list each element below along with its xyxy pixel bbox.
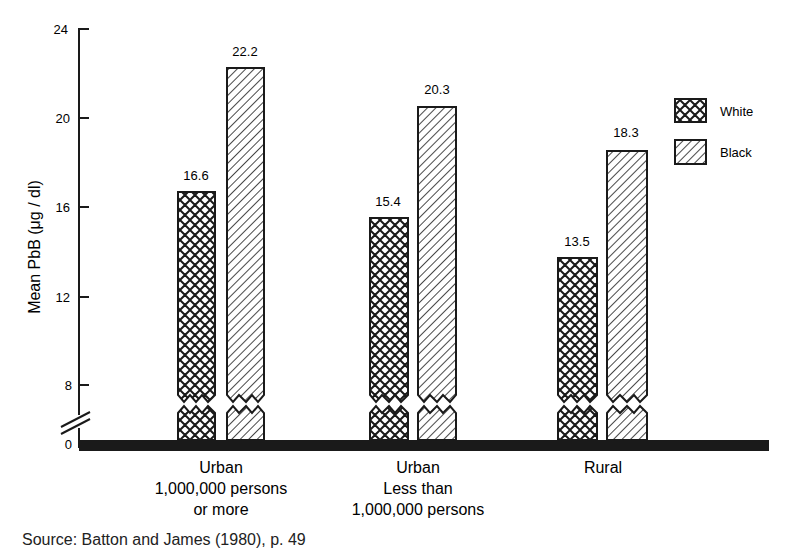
value-label-white-rural: 13.5	[564, 234, 589, 249]
category-label-1-line-1: Urban	[199, 459, 243, 476]
legend: White Black	[675, 99, 753, 164]
bar-white-urban-small	[370, 218, 408, 402]
ytick-20: 20	[56, 111, 70, 126]
ytick-12: 12	[56, 290, 70, 305]
value-label-white-urban-small: 15.4	[375, 194, 400, 209]
y-tick-labels: 24 20 16 12 8 0	[54, 22, 72, 452]
category-label-1-line-2: 1,000,000 persons	[155, 480, 288, 497]
category-label-2-line-3: 1,000,000 persons	[352, 501, 485, 518]
bar-group-rural: 13.5 18.3	[558, 125, 647, 440]
value-label-black-urban-large: 22.2	[232, 44, 257, 59]
category-label-2-line-1: Urban	[396, 459, 440, 476]
x-category-labels: Urban 1,000,000 persons or more Urban Le…	[155, 459, 622, 518]
legend-label-black: Black	[720, 145, 752, 160]
axis-break-icon	[61, 412, 90, 427]
bar-white-rural	[558, 258, 597, 402]
bar-group-urban-large: 16.6 22.2	[178, 44, 264, 440]
y-axis-label: Mean PbB (μg / dl)	[26, 180, 43, 314]
ytick-0: 0	[65, 437, 72, 452]
ytick-8: 8	[65, 378, 72, 393]
legend-swatch-black	[675, 140, 706, 164]
category-label-1-line-3: or more	[193, 501, 248, 518]
bar-group-urban-small: 15.4 20.3	[370, 82, 456, 440]
value-label-white-urban-large: 16.6	[183, 168, 208, 183]
ytick-16: 16	[56, 200, 70, 215]
legend-swatch-white	[675, 99, 706, 122]
ytick-24: 24	[54, 22, 68, 37]
x-axis-baseline	[79, 440, 769, 451]
category-label-3: Rural	[584, 459, 622, 476]
bar-white-urban-large	[178, 192, 215, 402]
value-label-black-urban-small: 20.3	[424, 82, 449, 97]
legend-label-white: White	[720, 104, 753, 119]
source-note: Source: Batton and James (1980), p. 49	[22, 531, 306, 549]
value-label-black-rural: 18.3	[613, 125, 638, 140]
bar-black-rural	[607, 151, 647, 402]
bar-black-urban-large	[227, 68, 264, 402]
category-label-2-line-2: Less than	[383, 480, 452, 497]
bar-black-urban-small	[418, 107, 456, 402]
